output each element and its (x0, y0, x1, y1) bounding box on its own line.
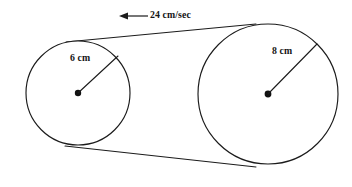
left-pulley-radius-label: 6 cm (70, 52, 90, 63)
diagram-canvas (0, 0, 352, 187)
belt-speed-label: 24 cm/sec (150, 9, 191, 20)
pulley-belt-diagram: 24 cm/sec 6 cm 8 cm (0, 0, 352, 187)
right-pulley-radius-label: 8 cm (272, 45, 292, 56)
belt-speed-arrow-head (119, 13, 128, 20)
